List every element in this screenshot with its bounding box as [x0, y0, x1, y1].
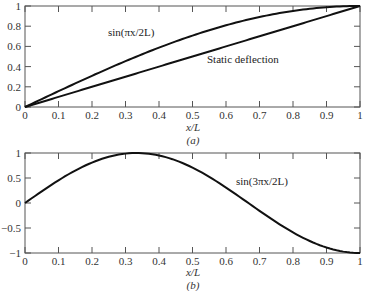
x-axis-label-b: x/L	[185, 266, 200, 278]
x-axis-label-a: x/L	[185, 121, 200, 133]
x-tick-label: 0.3	[119, 255, 133, 267]
y-tick-label: 0.2	[7, 81, 21, 93]
x-tick-label: 0.7	[253, 255, 267, 267]
x-tick-label: 1	[357, 109, 363, 121]
y-tick-label: 0.4	[7, 61, 21, 73]
x-tick-label: 0.9	[320, 109, 334, 121]
series-static-deflection-line	[25, 6, 360, 107]
y-tick-label: 1	[16, 0, 22, 12]
annotation-sin3: sin(3πx/2L)	[236, 175, 288, 188]
chart-panel-b: 00.10.20.30.40.50.60.70.80.91−1−0.500.51	[1, 147, 363, 267]
x-tick-label: 0.5	[186, 109, 200, 121]
x-tick-label: 0.2	[85, 255, 99, 267]
x-tick-label: 0.9	[320, 255, 334, 267]
y-tick-label: 0	[16, 197, 22, 209]
y-tick-label: 1	[16, 147, 22, 159]
x-tick-label: 0.4	[152, 255, 166, 267]
annotation-sin: sin(πx/2L)	[108, 26, 155, 39]
x-tick-label: 0.4	[152, 109, 166, 121]
chart-panel-a: 00.10.20.30.40.50.60.70.80.9100.20.40.60…	[7, 0, 363, 121]
y-tick-label: 0.5	[7, 172, 21, 184]
y-tick-label: −0.5	[1, 222, 21, 234]
series-sin3-line	[25, 153, 360, 253]
x-tick-label: 0.2	[85, 109, 99, 121]
x-tick-label: 0.1	[52, 109, 66, 121]
y-tick-label: −1	[9, 247, 21, 259]
x-tick-label: 0	[22, 109, 28, 121]
x-tick-label: 0.8	[286, 109, 300, 121]
x-tick-label: 0.7	[253, 109, 267, 121]
y-tick-label: 0	[16, 101, 22, 113]
y-tick-label: 0.8	[7, 20, 21, 32]
x-tick-label: 0.6	[219, 255, 233, 267]
x-tick-label: 0.3	[119, 109, 133, 121]
figure: 00.10.20.30.40.50.60.70.80.9100.20.40.60…	[0, 0, 366, 291]
annotation-static-deflection: Static deflection	[207, 53, 279, 65]
caption-a: (a)	[187, 134, 200, 147]
x-tick-label: 0.6	[219, 109, 233, 121]
caption-b: (b)	[187, 279, 200, 291]
x-tick-label: 0.8	[286, 255, 300, 267]
x-tick-label: 0.1	[52, 255, 66, 267]
x-tick-label: 1	[357, 255, 363, 267]
x-tick-label: 0	[22, 255, 28, 267]
y-tick-label: 0.6	[7, 40, 21, 52]
